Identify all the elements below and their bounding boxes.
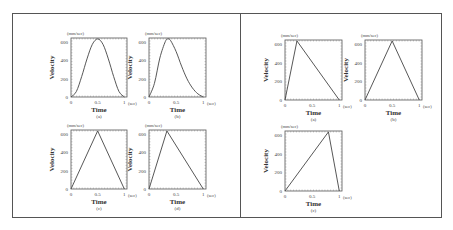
- y-tick-label: 400: [61, 58, 69, 63]
- velocity-curve: [365, 41, 419, 100]
- y-tick-label: 0: [360, 98, 363, 103]
- x-tick-label: 0.5: [95, 192, 102, 197]
- x-tick-label: 0.5: [309, 194, 316, 199]
- y-axis-label: Velocity: [126, 147, 134, 171]
- y-tick-label: 0: [280, 189, 283, 194]
- y-axis-label: Velocity: [342, 58, 350, 82]
- y-tick-label: 200: [275, 79, 283, 84]
- y-tick-label: 600: [61, 132, 69, 137]
- x-tick-label: 0: [148, 100, 151, 105]
- x-tick-label: 0.5: [309, 103, 316, 108]
- x-tick-label: 1: [418, 103, 421, 108]
- y-tick-label: 600: [139, 40, 147, 45]
- y-tick-label: 200: [275, 170, 283, 175]
- plot-frame: [285, 40, 342, 100]
- chart-right-c: 020040060000.51(mm/sec)(sec)VelocityTime…: [257, 121, 362, 230]
- velocity-curve: [71, 131, 124, 189]
- velocity-curve: [285, 41, 339, 100]
- x-axis-label: Time: [170, 198, 185, 206]
- y-tick-label: 0: [144, 187, 147, 192]
- x-unit-label: (sec): [423, 104, 432, 109]
- x-unit-label: (sec): [207, 193, 216, 198]
- y-tick-label: 400: [139, 58, 147, 63]
- x-unit-label: (sec): [343, 195, 352, 200]
- y-tick-label: 200: [61, 169, 69, 174]
- velocity-curve: [285, 132, 339, 191]
- velocity-curve: [149, 39, 203, 97]
- x-tick-label: 0.5: [173, 192, 180, 197]
- x-axis-label: Time: [170, 106, 185, 114]
- y-unit-label: (mm/sec): [67, 31, 84, 36]
- y-tick-label: 600: [139, 132, 147, 137]
- x-axis-label: Time: [306, 200, 321, 208]
- y-tick-label: 400: [139, 150, 147, 155]
- x-tick-label: 0.5: [173, 100, 180, 105]
- y-unit-label: (mm/sec): [67, 123, 84, 128]
- y-tick-label: 600: [275, 133, 283, 138]
- x-tick-label: 0: [70, 192, 73, 197]
- y-tick-label: 400: [355, 61, 363, 66]
- y-tick-label: 400: [61, 150, 69, 155]
- x-tick-label: 1: [338, 194, 341, 199]
- plot-frame: [71, 130, 127, 189]
- x-tick-label: 0.5: [95, 100, 102, 105]
- y-unit-label: (mm/sec): [281, 33, 298, 38]
- chart-caption: (a): [96, 114, 102, 119]
- x-unit-label: (sec): [207, 101, 216, 106]
- chart-caption: (b): [391, 117, 397, 122]
- y-unit-label: (mm/sec): [145, 31, 162, 36]
- plot-frame: [365, 40, 422, 100]
- y-tick-label: 200: [355, 79, 363, 84]
- chart-caption: (c): [96, 206, 102, 211]
- velocity-curve: [149, 131, 203, 189]
- chart-caption: (c): [311, 208, 317, 213]
- y-tick-label: 600: [61, 40, 69, 45]
- plot-frame: [71, 38, 127, 97]
- x-tick-label: 0: [364, 103, 367, 108]
- chart-left-d: 020040060000.51(mm/sec)(sec)VelocityTime…: [121, 120, 226, 229]
- y-tick-label: 200: [61, 77, 69, 82]
- y-tick-label: 600: [275, 42, 283, 47]
- x-tick-label: 1: [202, 192, 205, 197]
- y-tick-label: 0: [66, 95, 69, 100]
- x-tick-label: 0: [284, 194, 287, 199]
- velocity-curve: [71, 39, 124, 97]
- y-tick-label: 0: [280, 98, 283, 103]
- y-axis-label: Velocity: [48, 147, 56, 171]
- y-tick-label: 0: [66, 187, 69, 192]
- x-axis-label: Time: [306, 109, 321, 117]
- x-axis-label: Time: [91, 198, 106, 206]
- y-axis-label: Velocity: [262, 58, 270, 82]
- x-tick-label: 0.5: [389, 103, 396, 108]
- y-tick-label: 0: [144, 95, 147, 100]
- y-axis-label: Velocity: [126, 55, 134, 79]
- chart-caption: (b): [175, 114, 181, 119]
- y-unit-label: (mm/sec): [281, 124, 298, 129]
- x-tick-label: 0: [148, 192, 151, 197]
- y-axis-label: Velocity: [262, 149, 270, 173]
- x-tick-label: 0: [284, 103, 287, 108]
- y-tick-label: 600: [355, 42, 363, 47]
- x-tick-label: 0: [70, 100, 73, 105]
- chart-caption: (d): [175, 206, 181, 211]
- panel-divider: [240, 13, 241, 218]
- x-axis-label: Time: [91, 106, 106, 114]
- y-tick-label: 400: [275, 152, 283, 157]
- x-tick-label: 1: [202, 100, 205, 105]
- y-tick-label: 400: [275, 61, 283, 66]
- y-tick-label: 200: [139, 77, 147, 82]
- y-unit-label: (mm/sec): [145, 123, 162, 128]
- y-unit-label: (mm/sec): [361, 33, 378, 38]
- y-axis-label: Velocity: [48, 55, 56, 79]
- y-tick-label: 200: [139, 169, 147, 174]
- x-axis-label: Time: [386, 109, 401, 117]
